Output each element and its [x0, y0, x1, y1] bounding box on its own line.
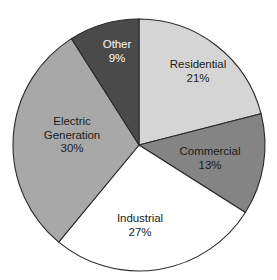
pie-svg [0, 0, 277, 280]
pie-slices [13, 19, 265, 271]
pie-chart: Residential 21% Commercial 13% Industria… [0, 0, 277, 280]
